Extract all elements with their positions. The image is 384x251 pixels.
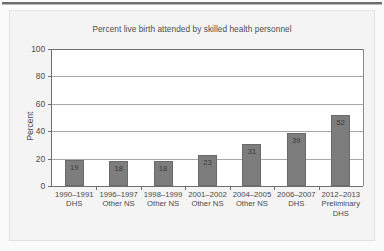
x-category-line: 1998–1999: [139, 190, 187, 199]
x-category-label: 2001–2002Other NS: [184, 190, 232, 209]
y-tick-mark: [48, 186, 52, 187]
y-tick-mark: [48, 76, 52, 77]
gridline: [52, 104, 363, 105]
y-tick-mark: [48, 159, 52, 160]
bar[interactable]: 39: [287, 133, 306, 186]
y-tick-label: 100: [19, 44, 45, 54]
bar[interactable]: 18: [109, 161, 128, 186]
bar-value-label: 31: [243, 147, 260, 156]
gridline: [52, 76, 363, 77]
plot-area: 19181823313952: [52, 49, 363, 186]
y-tick-label: 0: [19, 181, 45, 191]
x-category-line: 1996–1997: [95, 190, 143, 199]
x-axis-line: [51, 186, 363, 187]
y-tick-mark: [48, 104, 52, 105]
x-category-line: Preliminary: [317, 199, 365, 208]
top-divider-rule-soft: [2, 4, 382, 5]
bar[interactable]: 23: [198, 155, 217, 187]
y-tick-label: 60: [19, 99, 45, 109]
x-category-line: DHS: [272, 199, 320, 208]
bar-value-label: 18: [155, 164, 172, 173]
bar-value-label: 52: [332, 118, 349, 127]
x-category-line: Other NS: [95, 199, 143, 208]
x-category-label: 2004–2005Other NS: [228, 190, 276, 209]
x-category-label: 1998–1999Other NS: [139, 190, 187, 209]
x-category-line: Other NS: [139, 199, 187, 208]
plot-right-edge: [363, 49, 364, 186]
x-category-label: 1990–1991DHS: [50, 190, 98, 209]
x-category-line: 2001–2002: [184, 190, 232, 199]
chart-figure: Percent live birth attended by skilled h…: [0, 0, 384, 251]
x-category-line: Other NS: [184, 199, 232, 208]
y-tick-label: 80: [19, 71, 45, 81]
x-category-label: 2006–2007DHS: [272, 190, 320, 209]
chart-title: Percent live birth attended by skilled h…: [0, 24, 384, 34]
y-tick-label: 20: [19, 154, 45, 164]
x-category-line: 2004–2005: [228, 190, 276, 199]
y-tick-mark: [48, 131, 52, 132]
bar[interactable]: 31: [242, 144, 261, 186]
bar[interactable]: 19: [65, 160, 84, 186]
x-category-line: 2006–2007: [272, 190, 320, 199]
y-tick-label: 40: [19, 126, 45, 136]
x-category-line: Other NS: [228, 199, 276, 208]
x-category-label: 2012–2013PreliminaryDHS: [317, 190, 365, 218]
y-axis-line: [51, 49, 52, 186]
x-category-label: 1996–1997Other NS: [95, 190, 143, 209]
y-tick-mark: [48, 49, 52, 50]
x-category-line: DHS: [50, 199, 98, 208]
gridline: [52, 131, 363, 132]
x-category-line: 1990–1991: [50, 190, 98, 199]
x-category-line: DHS: [317, 209, 365, 218]
bar[interactable]: 18: [154, 161, 173, 186]
bar-value-label: 19: [66, 163, 83, 172]
bar[interactable]: 52: [331, 115, 350, 186]
x-category-line: 2012–2013: [317, 190, 365, 199]
bar-value-label: 39: [288, 136, 305, 145]
bar-value-label: 18: [110, 164, 127, 173]
bar-value-label: 23: [199, 158, 216, 167]
gridline: [52, 49, 363, 50]
